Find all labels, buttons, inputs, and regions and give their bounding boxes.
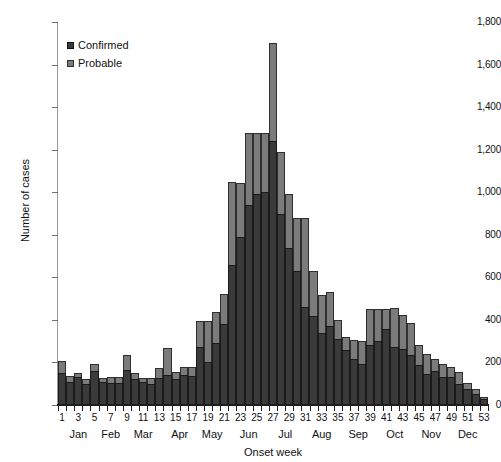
bar-segment-probable (277, 152, 285, 214)
x-axis-tick (415, 406, 416, 411)
bar-column (455, 22, 463, 405)
bar-column (415, 22, 423, 405)
bar-column (245, 22, 253, 405)
bar-column (196, 22, 204, 405)
x-axis-tick (269, 406, 270, 411)
bar-segment-confirmed (334, 339, 342, 405)
bar-segment-confirmed (196, 347, 204, 406)
bar-column (301, 22, 309, 405)
x-axis-tick (228, 406, 229, 411)
bar-segment-confirmed (172, 379, 180, 405)
bar-segment-probable (123, 355, 131, 370)
bar-column (407, 22, 415, 405)
x-axis-tick (261, 406, 262, 411)
x-axis-tick (383, 406, 384, 411)
bar-segment-confirmed (447, 377, 455, 405)
x-axis-tick (374, 406, 375, 411)
bar-segment-confirmed (204, 362, 212, 405)
x-axis-month-label: Dec (448, 428, 488, 441)
bar-segment-confirmed (66, 382, 74, 405)
x-axis-tick (318, 406, 319, 411)
bar-column (285, 22, 293, 405)
bar-segment-probable (228, 182, 236, 265)
bar-segment-probable (253, 133, 261, 195)
bar-column (253, 22, 261, 405)
bar-segment-confirmed (74, 377, 82, 405)
bar-column (472, 22, 480, 405)
x-axis-month-label: Sep (338, 428, 378, 441)
x-axis-tick (236, 406, 237, 411)
bar-column (463, 22, 471, 405)
bar-segment-probable (172, 372, 180, 379)
bar-segment-probable (399, 315, 407, 349)
bar-column (147, 22, 155, 405)
bar-segment-confirmed (463, 389, 471, 405)
bar-segment-confirmed (390, 347, 398, 406)
bar-column (390, 22, 398, 405)
bar-segment-confirmed (163, 375, 171, 405)
bar-segment-confirmed (269, 141, 277, 405)
bar-segment-confirmed (261, 192, 269, 405)
bar-segment-probable (269, 43, 277, 141)
x-axis-tick (196, 406, 197, 411)
bar-column (99, 22, 107, 405)
bar-segment-probable (455, 372, 463, 384)
bar-segment-probable (245, 133, 253, 205)
x-axis-tick (107, 406, 108, 411)
x-axis-tick (66, 406, 67, 411)
bar-column (318, 22, 326, 405)
x-axis-tick (407, 406, 408, 411)
bar-segment-confirmed (350, 359, 358, 405)
plot-area (58, 22, 488, 405)
legend-item-confirmed: Confirmed (67, 38, 129, 53)
bar-segment-probable (447, 367, 455, 378)
bar-segment-confirmed (180, 375, 188, 405)
bar-segment-probable (358, 341, 366, 363)
bar-column (350, 22, 358, 405)
x-axis-tick (391, 406, 392, 411)
bar-column (261, 22, 269, 405)
bar-segment-probable (163, 348, 171, 376)
x-axis-tick (447, 406, 448, 411)
bar-segment-confirmed (439, 377, 447, 405)
bar-series-container (58, 22, 488, 405)
bar-column (188, 22, 196, 405)
x-axis-tick (472, 406, 473, 411)
bar-segment-probable (439, 364, 447, 378)
bar-segment-confirmed (58, 373, 66, 405)
bar-segment-confirmed (90, 371, 98, 405)
bar-segment-probable (155, 368, 163, 379)
x-axis-tick (131, 406, 132, 411)
x-axis-month-label: Mar (123, 428, 163, 441)
bar-segment-confirmed (99, 382, 107, 405)
bar-segment-confirmed (318, 333, 326, 405)
bar-column (439, 22, 447, 405)
bar-segment-probable (90, 364, 98, 371)
x-axis-tick (350, 406, 351, 411)
x-axis-tick (74, 406, 75, 411)
x-axis-tick (423, 406, 424, 411)
bar-segment-confirmed (342, 350, 350, 405)
bar-column (107, 22, 115, 405)
x-axis-tick (464, 406, 465, 411)
x-axis-month-labels: JanFebMarAprMayJunJulAugSepOctNovDec (58, 428, 488, 442)
x-axis-tick (180, 406, 181, 411)
bar-segment-confirmed (131, 379, 139, 405)
probable-swatch-icon (67, 60, 74, 67)
bar-segment-confirmed (188, 376, 196, 405)
x-axis-tick (204, 406, 205, 411)
bar-segment-confirmed (431, 371, 439, 405)
bar-segment-confirmed (245, 205, 253, 405)
x-axis-tick (212, 406, 213, 411)
bar-column (74, 22, 82, 405)
bar-column (131, 22, 139, 405)
x-axis-tick (188, 406, 189, 411)
bar-segment-confirmed (82, 384, 90, 405)
bar-segment-probable (301, 218, 309, 307)
x-axis-month-label: Jun (229, 428, 269, 441)
bar-segment-confirmed (455, 384, 463, 405)
y-axis-title: Number of cases (20, 141, 31, 261)
bar-segment-probable (318, 295, 326, 332)
x-axis-tick (488, 406, 489, 411)
bar-column (82, 22, 90, 405)
